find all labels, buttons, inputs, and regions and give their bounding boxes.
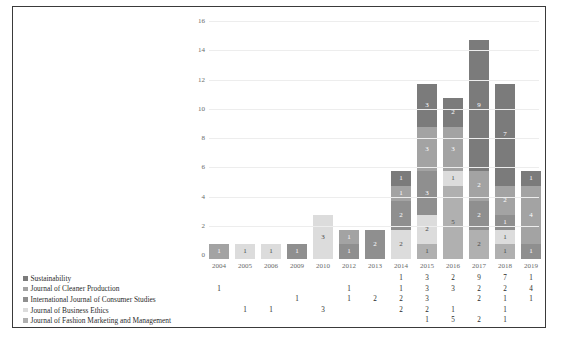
data-table-cell xyxy=(261,273,281,284)
bar-series-group: 111131122211123335132222911127141 xyxy=(209,7,541,259)
bar-column: 1 xyxy=(261,7,281,259)
bar-segment: 7 xyxy=(495,84,515,186)
bar-segment: 2 xyxy=(417,215,437,244)
bar-column: 2 xyxy=(365,7,385,259)
data-table-cell xyxy=(209,315,229,326)
x-tick-label: 2005 xyxy=(235,260,255,272)
data-table-cell xyxy=(287,305,307,316)
bar-column: 1 xyxy=(235,7,255,259)
bar-stack: 1 xyxy=(287,244,307,259)
x-tick-label: 2016 xyxy=(443,260,463,272)
data-table-cell: 2 xyxy=(469,294,489,305)
bar-segment: 2 xyxy=(365,230,385,259)
x-tick-label: 2012 xyxy=(339,260,359,272)
data-table-cell: 2 xyxy=(443,273,463,284)
x-tick-label: 2018 xyxy=(495,260,515,272)
y-tick-label: 2 xyxy=(183,222,205,230)
legend-table-row: Sustainability132971 xyxy=(13,273,547,284)
data-table-cell: 3 xyxy=(443,284,463,295)
data-table-cell: 2 xyxy=(391,305,411,316)
bar-segment: 2 xyxy=(495,186,515,215)
bar-column: 1 xyxy=(287,7,307,259)
bar-column: 11 xyxy=(339,7,359,259)
data-table-cell: 3 xyxy=(313,305,333,316)
bar-segment: 1 xyxy=(417,244,437,259)
bar-segment: 1 xyxy=(339,230,359,245)
data-table-cell xyxy=(287,315,307,326)
data-table-cell: 1 xyxy=(495,294,515,305)
legend-table-row: Journal of Cleaner Production11133224 xyxy=(13,284,547,295)
gridline xyxy=(209,21,539,22)
data-table-cells: 11133224 xyxy=(209,284,541,295)
y-tick-label: 6 xyxy=(183,163,205,171)
y-tick-label: 12 xyxy=(183,76,205,84)
y-tick-label: 8 xyxy=(183,134,205,142)
data-table-cell xyxy=(365,273,385,284)
data-table-cell: 1 xyxy=(495,305,515,316)
data-table-cell xyxy=(235,284,255,295)
data-table-cell xyxy=(443,294,463,305)
data-table-cell: 2 xyxy=(417,305,437,316)
bar-segment: 1 xyxy=(521,244,541,259)
data-table-cell: 1 xyxy=(287,294,307,305)
data-table-cell: 1 xyxy=(443,305,463,316)
bar-stack: 11 xyxy=(339,230,359,259)
data-table-cell: 2 xyxy=(365,294,385,305)
data-table-cells: 132971 xyxy=(209,273,541,284)
legend-label: Journal of Business Ethics xyxy=(31,306,109,315)
legend-swatch-icon xyxy=(23,297,28,302)
data-table-cell: 1 xyxy=(209,284,229,295)
chart-figure: 1614121086420 11113112221112333513222291… xyxy=(12,6,546,328)
x-tick-label: 2009 xyxy=(287,260,307,272)
bar-segment: 1 xyxy=(495,230,515,245)
x-tick-label: 2017 xyxy=(469,260,489,272)
bar-column: 141 xyxy=(521,7,541,259)
legend-swatch-icon xyxy=(23,308,28,313)
legend-swatch-icon xyxy=(23,318,28,323)
data-table-cell: 1 xyxy=(495,315,515,326)
x-tick-label: 2006 xyxy=(261,260,281,272)
data-table-cell: 2 xyxy=(469,284,489,295)
bar-stack: 1 xyxy=(209,244,229,259)
data-table-cell xyxy=(313,284,333,295)
data-table-cell: 4 xyxy=(521,284,541,295)
bar-column: 11127 xyxy=(495,7,515,259)
bar-stack: 141 xyxy=(521,171,541,259)
data-table-cell: 7 xyxy=(495,273,515,284)
y-tick-label: 16 xyxy=(183,17,205,25)
data-table-cell: 1 xyxy=(417,315,437,326)
data-table-cell xyxy=(261,284,281,295)
data-table-cell xyxy=(469,305,489,316)
bar-segment: 1 xyxy=(339,244,359,259)
bar-stack: 1 xyxy=(261,244,281,259)
data-table-cell xyxy=(287,284,307,295)
bar-segment: 1 xyxy=(443,171,463,186)
data-table-cell: 9 xyxy=(469,273,489,284)
data-table-cell: 3 xyxy=(417,284,437,295)
bar-stack: 2211 xyxy=(391,171,411,259)
bar-segment: 1 xyxy=(391,171,411,186)
gridline xyxy=(209,226,539,227)
data-table-cell xyxy=(261,315,281,326)
data-table-cell xyxy=(287,273,307,284)
bar-stack: 5132 xyxy=(443,98,463,259)
legend-table-row: Journal of Business Ethics1132211 xyxy=(13,305,547,316)
y-axis: 1614121086420 xyxy=(181,7,205,259)
data-table-cell xyxy=(365,284,385,295)
bar-column: 1 xyxy=(209,7,229,259)
data-table-cell xyxy=(391,315,411,326)
bar-segment: 1 xyxy=(287,244,307,259)
x-tick-label: 2004 xyxy=(209,260,229,272)
data-table-cell xyxy=(313,294,333,305)
data-table-cell: 1 xyxy=(339,284,359,295)
bar-segment: 1 xyxy=(495,244,515,259)
bar-stack: 11127 xyxy=(495,84,515,260)
data-table-cell xyxy=(261,294,281,305)
data-table-cell: 2 xyxy=(469,315,489,326)
data-table-cells: 11223211 xyxy=(209,294,541,305)
bar-segment: 1 xyxy=(261,244,281,259)
bar-segment: 3 xyxy=(417,171,437,215)
bar-stack: 12333 xyxy=(417,84,437,260)
legend-entry: Journal of Cleaner Production xyxy=(13,284,209,293)
bar-column: 12333 xyxy=(417,7,437,259)
